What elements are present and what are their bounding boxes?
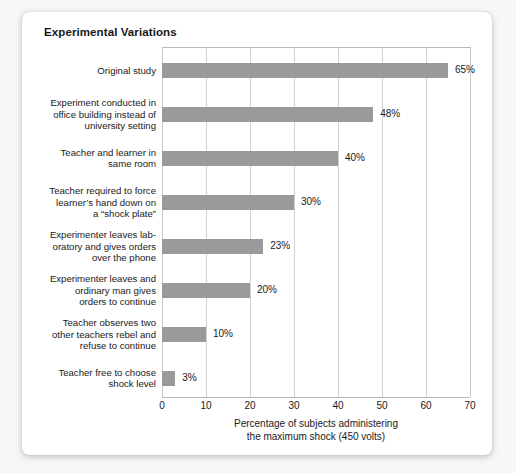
bar-track: 65% [162,63,470,78]
chart-row: Teacher observes twoother teachers rebel… [22,313,492,357]
chart-row: Experimenter leaves andordinary man give… [22,269,492,313]
x-tick-label: 10 [200,400,211,411]
bar-track: 48% [162,107,470,122]
plot-top-border [162,47,470,48]
category-label: Teacher free to chooseshock level [30,367,156,390]
x-tick-label: 40 [332,400,343,411]
chart-row: Teacher free to chooseshock level3% [22,357,492,401]
x-axis-ticks: 010203040506070 [162,400,470,416]
bar-value-label: 3% [182,372,196,383]
bar-track: 10% [162,327,470,342]
category-label: Teacher observes twoother teachers rebel… [30,317,156,352]
bar-track: 23% [162,239,470,254]
bar[interactable] [162,283,250,298]
page-title: Experimental Variations [44,26,177,38]
bar-track: 30% [162,195,470,210]
bar[interactable] [162,107,373,122]
bar-value-label: 48% [380,108,400,119]
bar-track: 20% [162,283,470,298]
category-label: Experimenter leaves andordinary man give… [30,273,156,308]
category-label: Experiment conducted inoffice building i… [30,97,156,132]
x-tick-label: 30 [288,400,299,411]
chart-row: Experimenter leaves lab-oratory and give… [22,225,492,269]
chart-row: Original study65% [22,49,492,93]
bar-value-label: 10% [213,328,233,339]
chart-row: Experiment conducted inoffice building i… [22,93,492,137]
category-label: Original study [30,65,156,77]
bar[interactable] [162,195,294,210]
x-tick-label: 20 [244,400,255,411]
bar-track: 3% [162,371,470,386]
category-label: Teacher required to forcelearner’s hand … [30,185,156,220]
bar-track: 40% [162,151,470,166]
bar[interactable] [162,151,338,166]
x-tick-label: 50 [376,400,387,411]
bar[interactable] [162,63,448,78]
bar-value-label: 65% [455,64,475,75]
bar[interactable] [162,239,263,254]
bar-value-label: 20% [257,284,277,295]
plot-area: Original study65%Experiment conducted in… [162,47,470,397]
chart-card: Experimental Variations Original study65… [22,12,492,455]
bar-value-label: 30% [301,196,321,207]
bar-value-label: 40% [345,152,365,163]
screenshot-root: Experimental Variations Original study65… [0,0,516,473]
bar[interactable] [162,371,175,386]
x-tick-label: 70 [464,400,475,411]
category-label: Teacher and learner insame room [30,147,156,170]
bar[interactable] [162,327,206,342]
chart-row: Teacher required to forcelearner’s hand … [22,181,492,225]
bar-value-label: 23% [270,240,290,251]
chart-row: Teacher and learner insame room40% [22,137,492,181]
x-tick-label: 60 [420,400,431,411]
category-label: Experimenter leaves lab-oratory and give… [30,229,156,264]
x-tick-label: 0 [159,400,165,411]
x-axis-label: Percentage of subjects administeringthe … [162,418,470,443]
